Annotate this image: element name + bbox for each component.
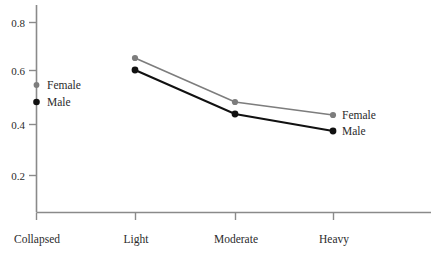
y-tick-label-3: 0.2 — [11, 170, 25, 182]
x-tick-label-light: Light — [124, 233, 150, 246]
legend-label-female-right: Female — [342, 109, 376, 121]
legend-label-male-right: Male — [342, 125, 366, 137]
series-line-female — [135, 58, 333, 115]
line-chart: 0.8 0.6 0.4 0.2 Collapsed Light Moderate… — [0, 0, 431, 255]
y-tick-label-0: 0.8 — [11, 17, 25, 29]
data-point-female-moderate — [232, 99, 238, 105]
y-tick-label-1: 0.6 — [11, 65, 25, 77]
y-tick-label-2: 0.4 — [11, 119, 25, 131]
legend-marker-male-left — [33, 99, 40, 106]
data-point-male-light — [132, 67, 139, 74]
x-tick-label-moderate: Moderate — [214, 233, 258, 245]
data-point-female-light — [132, 55, 138, 61]
x-tick-label-collapsed: Collapsed — [14, 233, 60, 246]
data-point-female-heavy — [330, 112, 336, 118]
legend-label-male-left: Male — [47, 96, 71, 108]
data-point-male-moderate — [232, 111, 239, 118]
x-tick-label-heavy: Heavy — [319, 233, 349, 246]
legend-label-female-left: Female — [47, 79, 81, 91]
legend-marker-female-left — [34, 82, 40, 88]
data-point-male-heavy — [330, 128, 337, 135]
chart-canvas: 0.8 0.6 0.4 0.2 Collapsed Light Moderate… — [0, 0, 431, 255]
